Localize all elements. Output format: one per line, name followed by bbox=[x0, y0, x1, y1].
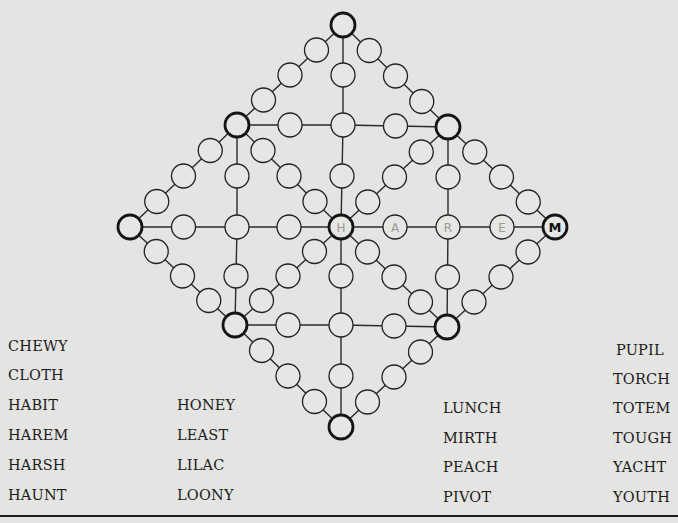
letter-cell[interactable] bbox=[276, 264, 300, 288]
letter-cell[interactable] bbox=[356, 190, 380, 214]
bottom-rule bbox=[0, 515, 678, 517]
cell-letter-r[interactable]: R bbox=[436, 215, 460, 239]
word-loony: LOONY bbox=[177, 487, 234, 503]
letter-cell[interactable] bbox=[198, 139, 222, 163]
letter-cell[interactable] bbox=[516, 240, 540, 264]
letter-cell[interactable] bbox=[276, 364, 300, 388]
svg-text:E: E bbox=[498, 221, 506, 235]
hub-lower-right[interactable] bbox=[435, 315, 459, 339]
letter-cell[interactable] bbox=[250, 339, 274, 363]
letter-cell[interactable] bbox=[436, 165, 460, 189]
hub-upper-right[interactable] bbox=[436, 115, 460, 139]
letter-cell[interactable] bbox=[356, 390, 380, 414]
letter-cell[interactable] bbox=[224, 264, 248, 288]
letter-cell[interactable] bbox=[409, 340, 433, 364]
word-harsh: HARSH bbox=[8, 457, 66, 473]
letter-cell[interactable] bbox=[463, 140, 487, 164]
letter-cell[interactable] bbox=[462, 290, 486, 314]
letter-cell[interactable] bbox=[516, 190, 540, 214]
letter-cell[interactable] bbox=[278, 113, 302, 137]
letter-cell[interactable] bbox=[276, 313, 300, 337]
hub-upper-left[interactable] bbox=[225, 113, 249, 137]
letter-cell[interactable] bbox=[409, 140, 433, 164]
letter-cell[interactable] bbox=[489, 265, 513, 289]
letter-cell[interactable] bbox=[303, 190, 327, 214]
svg-text:M: M bbox=[549, 220, 562, 235]
letter-cell[interactable] bbox=[409, 290, 433, 314]
letter-cell[interactable] bbox=[171, 264, 195, 288]
letter-cell[interactable] bbox=[410, 90, 434, 114]
hub-right[interactable]: M bbox=[543, 215, 567, 239]
hub-left[interactable] bbox=[118, 215, 142, 239]
letter-cell[interactable] bbox=[252, 88, 276, 112]
letter-cell[interactable] bbox=[172, 164, 196, 188]
letter-cell[interactable] bbox=[251, 139, 275, 163]
letter-cell[interactable] bbox=[383, 165, 407, 189]
word-peach: PEACH bbox=[443, 459, 499, 475]
word-habit: HABIT bbox=[8, 397, 58, 413]
letter-cell[interactable] bbox=[382, 314, 406, 338]
puzzle-grid: AREHM bbox=[0, 0, 678, 523]
word-haunt: HAUNT bbox=[8, 487, 67, 503]
word-torch: TORCH bbox=[613, 371, 670, 387]
word-totem: TOTEM bbox=[613, 400, 671, 416]
letter-cell[interactable] bbox=[197, 289, 221, 313]
letter-cell[interactable] bbox=[356, 240, 380, 264]
letter-cell[interactable] bbox=[384, 114, 408, 138]
hub-center[interactable]: H bbox=[329, 215, 353, 239]
word-yacht: YACHT bbox=[613, 459, 666, 475]
word-mirth: MIRTH bbox=[443, 430, 498, 446]
letter-cell[interactable] bbox=[490, 165, 514, 189]
cell-letter-e[interactable]: E bbox=[490, 215, 514, 239]
hub-lower-left[interactable] bbox=[223, 313, 247, 337]
letter-cell[interactable] bbox=[278, 63, 302, 87]
word-pivot: PIVOT bbox=[443, 489, 491, 505]
letter-cell[interactable] bbox=[329, 264, 353, 288]
letter-cell[interactable] bbox=[436, 265, 460, 289]
letter-cell[interactable] bbox=[382, 365, 406, 389]
letter-cell[interactable] bbox=[145, 190, 169, 214]
letter-cell[interactable] bbox=[277, 215, 301, 239]
word-lilac: LILAC bbox=[177, 457, 225, 473]
svg-text:R: R bbox=[444, 221, 452, 235]
svg-text:A: A bbox=[391, 221, 400, 235]
word-cloth: CLOTH bbox=[8, 367, 64, 383]
word-tough: TOUGH bbox=[613, 430, 672, 446]
hub-bottom[interactable] bbox=[329, 415, 353, 439]
word-pupil: PUPIL bbox=[616, 342, 664, 358]
letter-cell[interactable] bbox=[225, 215, 249, 239]
letter-cell[interactable] bbox=[329, 313, 353, 337]
letter-cell[interactable] bbox=[305, 38, 329, 62]
letter-cell[interactable] bbox=[329, 364, 353, 388]
letter-cell[interactable] bbox=[384, 64, 408, 88]
letter-cell[interactable] bbox=[225, 164, 249, 188]
letter-cell[interactable] bbox=[277, 164, 301, 188]
hub-top[interactable] bbox=[331, 13, 355, 37]
word-honey: HONEY bbox=[177, 397, 235, 413]
word-harem: HAREM bbox=[8, 427, 68, 443]
letter-cell[interactable] bbox=[172, 215, 196, 239]
word-least: LEAST bbox=[177, 427, 228, 443]
letter-cell[interactable] bbox=[250, 289, 274, 313]
grid-cells: AREHM bbox=[118, 13, 567, 439]
word-lunch: LUNCH bbox=[443, 400, 501, 416]
letter-cell[interactable] bbox=[331, 63, 355, 87]
word-youth: YOUTH bbox=[613, 489, 670, 505]
letter-cell[interactable] bbox=[357, 39, 381, 63]
letter-cell[interactable] bbox=[303, 240, 327, 264]
letter-cell[interactable] bbox=[303, 390, 327, 414]
letter-cell[interactable] bbox=[144, 240, 168, 264]
letter-cell[interactable] bbox=[382, 265, 406, 289]
letter-cell[interactable] bbox=[330, 164, 354, 188]
svg-text:H: H bbox=[336, 221, 345, 235]
cell-letter-a[interactable]: A bbox=[383, 215, 407, 239]
word-chewy: CHEWY bbox=[8, 338, 68, 354]
letter-cell[interactable] bbox=[331, 113, 355, 137]
